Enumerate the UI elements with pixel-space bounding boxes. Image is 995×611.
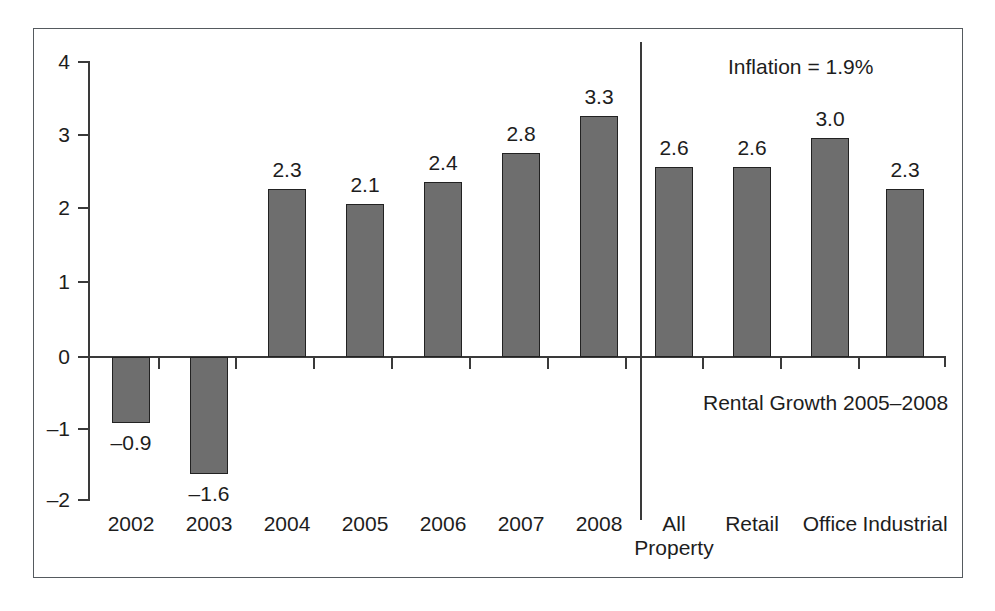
- chart-screenshot: 4 3 2 1 0 –1 –2 –0.9 2002 –1.6 2003 2.3 …: [0, 0, 995, 611]
- y-tick-label-2: 2: [30, 197, 70, 218]
- x-tick-sep-9: [780, 358, 782, 369]
- bar-value-2007: 2.8: [481, 123, 561, 144]
- x-tick-sep-2: [235, 358, 237, 369]
- y-tick-label-1: 1: [30, 271, 70, 292]
- y-tick-4: [78, 61, 89, 63]
- bar-value-industrial: 2.3: [865, 159, 945, 180]
- x-label-all-property: All Property: [634, 512, 714, 559]
- x-tick-sep-7: [625, 358, 627, 369]
- x-tick-sep-5: [469, 358, 471, 369]
- x-label-2008: 2008: [559, 512, 639, 536]
- y-tick-m1: [78, 428, 89, 430]
- bar-value-2005: 2.1: [325, 174, 405, 195]
- bar-office[interactable]: [811, 138, 849, 357]
- x-tick-sep-6: [547, 358, 549, 369]
- bar-value-2004: 2.3: [247, 159, 327, 180]
- x-tick-sep-3: [313, 358, 315, 369]
- x-label-2007: 2007: [481, 512, 561, 536]
- y-tick-label-0: 0: [30, 346, 70, 367]
- bar-all-property[interactable]: [655, 167, 693, 357]
- x-tick-sep-10: [858, 358, 860, 369]
- bar-value-2003: –1.6: [169, 483, 249, 504]
- bar-value-2002: –0.9: [91, 432, 171, 453]
- bar-2004[interactable]: [268, 189, 306, 357]
- bar-2006[interactable]: [424, 182, 462, 357]
- x-label-industrial: Industrial: [855, 512, 955, 536]
- x-label-2002: 2002: [91, 512, 171, 536]
- x-tick-sep-8: [702, 358, 704, 369]
- y-tick-2: [78, 207, 89, 209]
- bar-2003[interactable]: [190, 357, 228, 474]
- bar-retail[interactable]: [733, 167, 771, 357]
- bar-value-office: 3.0: [790, 108, 870, 129]
- y-tick-label-3: 3: [30, 124, 70, 145]
- bar-value-2006: 2.4: [403, 152, 483, 173]
- x-label-2005: 2005: [325, 512, 405, 536]
- plot-area: 4 3 2 1 0 –1 –2 –0.9 2002 –1.6 2003 2.3 …: [0, 0, 995, 611]
- x-tick-sep-1: [158, 358, 160, 369]
- annotation-inflation: Inflation = 1.9%: [728, 56, 873, 77]
- bar-value-retail: 2.6: [712, 137, 792, 158]
- x-label-2006: 2006: [403, 512, 483, 536]
- y-tick-0: [78, 356, 89, 358]
- bar-2008[interactable]: [580, 116, 618, 357]
- x-axis-right-cap: [944, 356, 946, 367]
- x-label-retail: Retail: [712, 512, 792, 536]
- y-tick-label-4: 4: [30, 51, 70, 72]
- y-tick-label-minus-2: –2: [30, 489, 70, 510]
- y-tick-label-minus-1: –1: [30, 418, 70, 439]
- x-label-2003: 2003: [169, 512, 249, 536]
- bar-2002[interactable]: [112, 357, 150, 423]
- group-divider-line: [640, 42, 642, 520]
- y-tick-m2: [78, 499, 89, 501]
- bar-2005[interactable]: [346, 204, 384, 357]
- bar-2007[interactable]: [502, 153, 540, 357]
- bar-industrial[interactable]: [886, 189, 924, 357]
- annotation-rental-growth: Rental Growth 2005–2008: [703, 392, 948, 413]
- x-label-2004: 2004: [247, 512, 327, 536]
- bar-value-2008: 3.3: [559, 86, 639, 107]
- bar-value-all-property: 2.6: [634, 137, 714, 158]
- x-tick-sep-4: [391, 358, 393, 369]
- y-tick-3: [78, 134, 89, 136]
- y-tick-1: [78, 281, 89, 283]
